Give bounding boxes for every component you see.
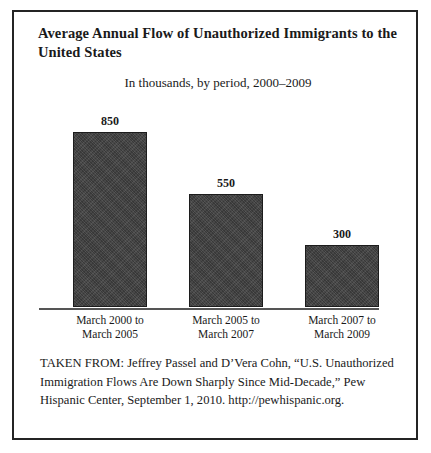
category-label-line: March 2005 to bbox=[176, 313, 276, 327]
figure-frame: Average Annual Flow of Unauthorized Immi… bbox=[12, 10, 418, 440]
category-label-line: March 2000 to bbox=[60, 313, 160, 327]
title-block: Average Annual Flow of Unauthorized Immi… bbox=[38, 24, 398, 62]
x-axis-line bbox=[39, 308, 379, 310]
category-label-line: March 2005 bbox=[60, 327, 160, 341]
category-label-line: March 2007 bbox=[176, 327, 276, 341]
bar-value-label: 300 bbox=[333, 227, 351, 241]
category-axis-labels: March 2000 to March 2005 March 2005 to M… bbox=[52, 313, 400, 341]
bar-rect bbox=[305, 245, 379, 307]
category-label-2: March 2005 to March 2007 bbox=[176, 313, 276, 341]
category-label-line: March 2007 to bbox=[292, 313, 392, 327]
category-label-3: March 2007 to March 2009 bbox=[292, 313, 392, 341]
bar-value-label: 550 bbox=[217, 176, 235, 190]
plot-area: 850 550 300 bbox=[52, 107, 400, 307]
category-label-line: March 2009 bbox=[292, 327, 392, 341]
bar-rect bbox=[73, 132, 147, 307]
bar-group-2: 550 bbox=[186, 107, 266, 307]
bars-row: 850 550 300 bbox=[52, 107, 400, 307]
bar-rect bbox=[189, 194, 263, 307]
page-title: Average Annual Flow of Unauthorized Immi… bbox=[38, 24, 398, 62]
chart-subtitle: In thousands, by period, 2000–2009 bbox=[38, 74, 398, 91]
bar-value-label: 850 bbox=[101, 114, 119, 128]
source-citation: TAKEN FROM: Jeffrey Passel and D’Vera Co… bbox=[40, 354, 398, 410]
category-label-1: March 2000 to March 2005 bbox=[60, 313, 160, 341]
bar-group-3: 300 bbox=[302, 107, 382, 307]
bar-group-1: 850 bbox=[70, 107, 150, 307]
